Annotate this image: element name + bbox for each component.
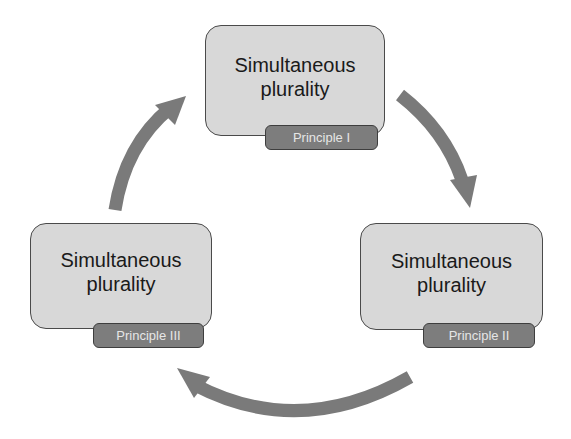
node-top: Simultaneous plurality — [205, 25, 385, 136]
node-right: Simultaneous plurality — [360, 223, 543, 330]
node-right-line-2: plurality — [417, 273, 486, 297]
badge-principle-3: Principle III — [93, 323, 204, 348]
node-left-line-2: plurality — [87, 272, 156, 296]
arrow-left-to-top — [115, 96, 186, 210]
badge-principle-1: Principle I — [265, 125, 378, 150]
node-left-line-1: Simultaneous — [60, 248, 181, 272]
node-top-line-2: plurality — [261, 77, 330, 101]
node-top-line-1: Simultaneous — [234, 53, 355, 77]
badge-principle-2: Principle II — [423, 323, 535, 348]
node-left: Simultaneous plurality — [30, 223, 212, 329]
arrow-top-to-right — [400, 95, 477, 208]
node-right-line-1: Simultaneous — [391, 249, 512, 273]
arrow-right-to-left — [177, 368, 410, 411]
